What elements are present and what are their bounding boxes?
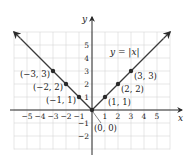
data-point xyxy=(64,82,68,86)
point-label: (2, 2) xyxy=(121,84,144,94)
x-tick-label: 2 xyxy=(116,112,121,121)
y-tick-label: −1 xyxy=(78,119,89,128)
y-tick-label: 3 xyxy=(84,67,89,76)
right-arrow-icon xyxy=(164,32,171,39)
function-label: y = |x| xyxy=(109,47,140,58)
data-point xyxy=(90,108,94,112)
y-tick-label: 2 xyxy=(84,80,89,89)
y-tick-labels: 54321−1−2 xyxy=(78,41,89,141)
data-point xyxy=(116,82,120,86)
x-tick-label: −5 xyxy=(21,112,32,121)
point-label: (1, 1) xyxy=(108,97,131,107)
y-tick-label: 1 xyxy=(84,93,89,102)
data-point xyxy=(77,95,81,99)
left-arrow-icon xyxy=(14,32,21,39)
x-tick-label: 4 xyxy=(142,112,147,121)
data-point xyxy=(103,95,107,99)
y-tick-label: 4 xyxy=(84,54,89,63)
data-point xyxy=(129,69,133,73)
x-tick-label: −2 xyxy=(60,112,71,121)
point-label: (3, 3) xyxy=(134,71,157,81)
point-label: (−1, 1) xyxy=(46,95,76,105)
x-tick-labels: −5−4−3−2−112345 xyxy=(21,112,159,121)
x-tick-label: 3 xyxy=(129,112,134,121)
x-axis-label: x xyxy=(178,113,183,123)
x-tick-label: 5 xyxy=(155,112,160,121)
data-point xyxy=(51,69,55,73)
point-label: (−2, 2) xyxy=(33,82,63,92)
y-axis-label: y xyxy=(81,14,88,24)
y-tick-label: 5 xyxy=(84,41,89,50)
x-tick-label: −3 xyxy=(47,112,58,121)
x-tick-label: −4 xyxy=(34,112,45,121)
point-label: (−3, 3) xyxy=(20,69,50,79)
x-tick-label: 1 xyxy=(103,112,108,121)
point-label: (0, 0) xyxy=(94,123,117,133)
y-tick-label: −2 xyxy=(78,132,89,141)
chart-canvas: x y −5−4−3−2−112345 54321−1−2 y = |x| (−… xyxy=(0,0,193,161)
origin-leader-line xyxy=(93,112,101,123)
